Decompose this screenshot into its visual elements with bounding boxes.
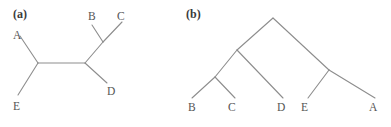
edge-node-bc-to-C: [215, 77, 235, 98]
panel-a-label: (a): [13, 8, 27, 20]
edge-C-to-node-bc: [103, 22, 122, 42]
panel-b-rooted-tree: (b) BCDEA: [180, 0, 391, 127]
edge-node-ea-to-E: [308, 70, 329, 98]
taxon-label-a-a: A: [13, 30, 21, 42]
panel-b-label: (b): [186, 8, 201, 20]
panel-b-tree-graphic: [180, 0, 391, 127]
edge-A-to-node-left: [20, 36, 38, 63]
taxon-label-b-a: A: [369, 102, 377, 114]
taxon-label-b-e: E: [301, 102, 308, 114]
edge-node-right-to-node-bc: [85, 42, 103, 63]
taxon-label-a-e: E: [13, 101, 20, 113]
edge-node-bc-to-B: [192, 77, 215, 98]
edge-node-bcd-to-D: [237, 50, 283, 98]
edge-D-to-node-right: [85, 63, 107, 83]
panel-a-unrooted-tree: (a) ABCDE: [0, 0, 180, 127]
edge-B-to-node-bc: [92, 25, 103, 42]
taxon-label-a-c: C: [117, 11, 125, 23]
edge-root-to-node-ea: [273, 18, 329, 70]
taxon-label-a-d: D: [107, 86, 115, 98]
taxon-label-a-b: B: [88, 11, 96, 23]
taxon-label-b-d: D: [277, 102, 285, 114]
phylogenetic-tree-figure: (a) ABCDE (b) BCDEA: [0, 0, 391, 127]
edge-E-to-node-left: [18, 63, 38, 95]
edge-node-bcd-to-bc: [215, 50, 237, 77]
edge-root-to-node-bcd: [237, 18, 273, 50]
edge-node-ea-to-A: [329, 70, 375, 98]
taxon-label-b-c: C: [228, 102, 236, 114]
taxon-label-b-b: B: [188, 102, 196, 114]
